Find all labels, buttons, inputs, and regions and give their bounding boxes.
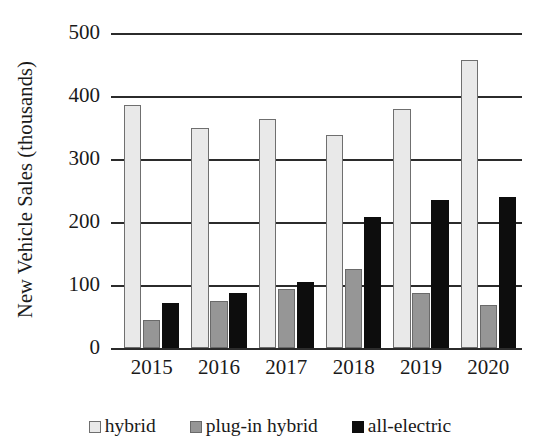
legend-label: all-electric bbox=[368, 416, 451, 436]
legend-swatch-icon bbox=[190, 421, 202, 433]
y-axis-tick-label: 200 bbox=[30, 211, 100, 232]
x-axis-tick-label: 2019 bbox=[387, 355, 454, 380]
bar-plug-in-hybrid-2020 bbox=[480, 305, 498, 348]
legend-swatch-icon bbox=[89, 421, 101, 433]
x-axis-tick-labels: 201520162017201820192020 bbox=[118, 355, 522, 385]
bar-plug-in-hybrid-2019 bbox=[412, 293, 430, 348]
x-axis-tick-label: 2020 bbox=[455, 355, 522, 380]
gridline bbox=[118, 348, 522, 350]
y-axis-tick bbox=[111, 285, 118, 287]
x-axis-tick-label: 2015 bbox=[118, 355, 185, 380]
x-axis-tick-label: 2018 bbox=[320, 355, 387, 380]
bar-chart: New Vehicle Sales (thousands) 0100200300… bbox=[0, 0, 540, 443]
bar-hybrid-2020 bbox=[461, 60, 479, 348]
y-axis-tick-label: 100 bbox=[30, 274, 100, 295]
y-axis-tick-label: 400 bbox=[30, 85, 100, 106]
y-axis-tick bbox=[111, 96, 118, 98]
bar-hybrid-2018 bbox=[326, 135, 344, 348]
y-axis-tick bbox=[111, 348, 118, 350]
x-axis-tick-label: 2017 bbox=[253, 355, 320, 380]
y-axis-tick bbox=[111, 159, 118, 161]
y-axis-tick-label: 500 bbox=[30, 22, 100, 43]
bar-plug-in-hybrid-2015 bbox=[143, 320, 161, 348]
bar-hybrid-2016 bbox=[191, 128, 209, 348]
legend-swatch-icon bbox=[352, 421, 364, 433]
bar-all-electric-2016 bbox=[229, 293, 247, 348]
bar-plug-in-hybrid-2016 bbox=[210, 301, 228, 348]
bar-plug-in-hybrid-2018 bbox=[345, 269, 363, 348]
bar-all-electric-2020 bbox=[499, 197, 517, 348]
x-axis-tick-label: 2016 bbox=[185, 355, 252, 380]
bar-hybrid-2017 bbox=[259, 119, 277, 348]
bar-all-electric-2017 bbox=[297, 282, 315, 348]
legend-item-all-electric[interactable]: all-electric bbox=[352, 416, 451, 436]
bar-all-electric-2015 bbox=[162, 303, 180, 348]
bar-all-electric-2019 bbox=[431, 200, 449, 348]
legend-label: plug-in hybrid bbox=[206, 416, 318, 436]
plot-area bbox=[118, 33, 522, 348]
bars-layer bbox=[118, 33, 522, 348]
y-axis-tick bbox=[111, 222, 118, 224]
legend-label: hybrid bbox=[105, 416, 156, 436]
chart-legend: hybridplug-in hybridall-electric bbox=[0, 412, 540, 440]
bar-hybrid-2015 bbox=[124, 105, 142, 348]
y-axis-tick-label: 0 bbox=[30, 337, 100, 358]
bar-all-electric-2018 bbox=[364, 217, 382, 348]
legend-item-hybrid[interactable]: hybrid bbox=[89, 416, 156, 436]
legend-item-plug-in-hybrid[interactable]: plug-in hybrid bbox=[190, 416, 318, 436]
y-axis-tick-label: 300 bbox=[30, 148, 100, 169]
y-axis-tick-labels: 0100200300400500 bbox=[30, 33, 100, 348]
bar-plug-in-hybrid-2017 bbox=[278, 289, 296, 348]
bar-hybrid-2019 bbox=[393, 109, 411, 348]
y-axis-tick bbox=[111, 33, 118, 35]
